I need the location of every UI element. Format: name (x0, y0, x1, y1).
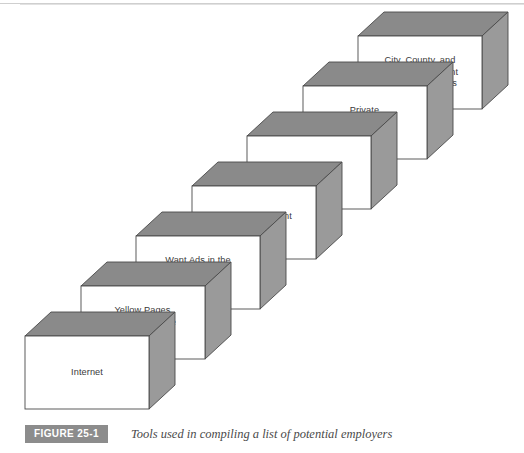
step-front-face (25, 336, 149, 409)
staircase-step-1: Internet (23, 310, 177, 411)
figure-page: City, County, andState GovernmentPersonn… (0, 0, 524, 453)
step-block-shape (23, 310, 177, 411)
figure-caption-text: Tools used in compiling a list of potent… (131, 427, 392, 442)
figure-number-badge: FIGURE 25-1 (25, 425, 108, 443)
staircase-diagram: City, County, andState GovernmentPersonn… (0, 0, 524, 418)
figure-caption: FIGURE 25-1 Tools used in compiling a li… (25, 425, 392, 443)
